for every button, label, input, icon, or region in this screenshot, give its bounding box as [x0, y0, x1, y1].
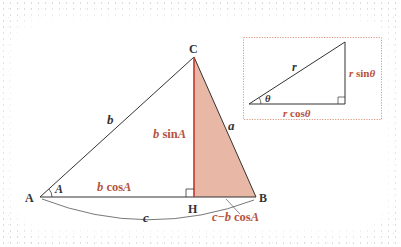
height-label: b sinA [153, 127, 186, 141]
triangle-diagram: C A H B b a c A b sinA b cosA c−b cosA r… [0, 0, 401, 247]
vertex-label-a: A [25, 191, 34, 205]
angle-arc-a [49, 189, 52, 197]
base-left-label: b cosA [97, 180, 131, 194]
angle-label-a: A [54, 182, 63, 196]
side-label-a: a [228, 118, 235, 133]
base-right-label: c−b cosA [212, 210, 259, 224]
side-label-b: b [107, 112, 114, 127]
right-angle-mark-h [186, 189, 194, 197]
vertex-label-h: H [188, 202, 198, 216]
inset-label-theta: θ [265, 93, 271, 104]
inset-label-r-sin: r sinθ [349, 67, 376, 79]
inset-label-r: r [292, 60, 297, 74]
vertex-label-c: C [189, 42, 198, 56]
side-label-c: c [143, 210, 149, 225]
diagram-canvas: C A H B b a c A b sinA b cosA c−b cosA r… [0, 0, 401, 247]
vertex-label-b: B [259, 191, 267, 205]
inset-label-r-cos: r cosθ [283, 107, 311, 119]
